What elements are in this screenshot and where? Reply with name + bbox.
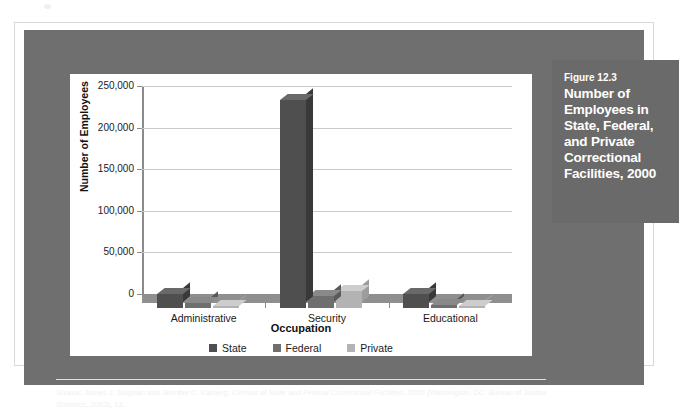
source-title: Census of State and Federal Correctional… — [232, 388, 424, 397]
legend-item-private[interactable]: Private — [347, 342, 393, 354]
legend-swatch-icon — [347, 344, 355, 352]
bar-face — [157, 294, 183, 308]
legend-label: State — [222, 342, 247, 354]
page-speck — [44, 4, 51, 9]
chart-panel: Number of Employees 050,000100,000150,00… — [56, 60, 546, 370]
y-axis-tick-label: 250,000 — [64, 81, 134, 91]
bar-face — [280, 100, 306, 308]
bar-private-educational — [459, 306, 485, 308]
gridline — [142, 86, 512, 87]
bar-state-security — [280, 100, 306, 308]
legend-label: Private — [360, 342, 393, 354]
bar-face — [185, 303, 211, 308]
bar-state-educational — [403, 294, 429, 308]
figure-caption-block: Figure 12.3 Number of Employees in State… — [552, 60, 679, 223]
legend-item-federal[interactable]: Federal — [273, 342, 322, 354]
y-axis-tick-label: 150,000 — [64, 164, 134, 174]
bar-face — [459, 306, 485, 308]
x-axis-tick — [389, 303, 390, 308]
source-note: Source: James J. Stephan and Jennifer C.… — [56, 387, 556, 411]
y-axis-tick-label: 0 — [64, 289, 134, 299]
bar-top — [459, 300, 493, 306]
plot-region: 050,000100,000150,000200,000250,000 Admi… — [142, 86, 512, 308]
figure-block: Number of Employees 050,000100,000150,00… — [24, 30, 644, 385]
bar-face — [213, 306, 239, 308]
gridline — [142, 252, 512, 253]
legend-swatch-icon — [273, 344, 281, 352]
gridline — [142, 169, 512, 170]
bar-federal-security — [308, 296, 334, 308]
gridline — [142, 128, 512, 129]
chart-canvas: Number of Employees 050,000100,000150,00… — [70, 74, 532, 356]
bar-private-administrative — [213, 306, 239, 308]
chart-legend: StateFederalPrivate — [70, 342, 532, 354]
y-axis-tick-mark — [137, 169, 142, 170]
y-axis-tick-label: 100,000 — [64, 206, 134, 216]
y-axis-tick-label: 200,000 — [64, 123, 134, 133]
x-axis-tick — [265, 303, 266, 308]
plot-area — [142, 86, 512, 294]
bar-face — [308, 296, 334, 308]
source-prefix: Source: James J. Stephan and Jennifer C.… — [56, 388, 232, 397]
y-axis-tick-mark — [137, 86, 142, 87]
bar-federal-administrative — [185, 303, 211, 308]
y-axis-title: Number of Employees — [78, 81, 90, 192]
bar-face — [431, 305, 457, 308]
legend-label: Federal — [286, 342, 322, 354]
bar-state-administrative — [157, 294, 183, 308]
y-axis-tick-label: 50,000 — [64, 247, 134, 257]
bar-face — [403, 294, 429, 308]
figure-number: Figure 12.3 — [564, 72, 669, 83]
legend-item-state[interactable]: State — [209, 342, 247, 354]
legend-swatch-icon — [209, 344, 217, 352]
gridline — [142, 211, 512, 212]
bar-federal-educational — [431, 305, 457, 308]
y-axis-tick-mark — [137, 128, 142, 129]
bar-top — [213, 300, 247, 306]
y-axis-tick-mark — [137, 294, 142, 295]
figure-title: Number of Employees in State, Federal, a… — [564, 86, 669, 182]
bar-side — [306, 88, 313, 302]
source-divider — [56, 379, 546, 380]
x-axis-title: Occupation — [70, 322, 532, 334]
y-axis-tick-mark — [137, 211, 142, 212]
y-axis-tick-mark — [137, 252, 142, 253]
